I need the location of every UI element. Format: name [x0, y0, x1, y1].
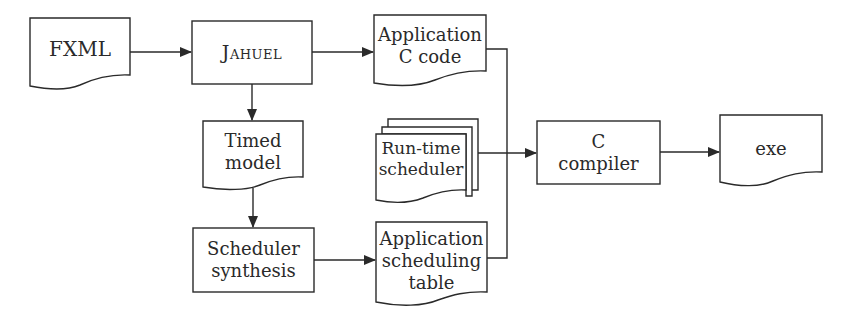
runtime-scheduler-line2: scheduler [379, 159, 464, 180]
node-runtime-scheduler: Run-time scheduler [376, 134, 466, 184]
app-c-code-line1: Application [378, 24, 482, 46]
node-app-c-code: Application C code [374, 15, 486, 77]
node-jahuel: Jahuel [192, 21, 312, 84]
timed-model-line1: Timed [224, 130, 281, 152]
app-sched-table-line2: scheduling [382, 250, 481, 272]
exe-label: exe [755, 138, 786, 160]
node-scheduler-synthesis: Scheduler synthesis [193, 228, 314, 292]
node-exe: exe [720, 115, 822, 183]
jahuel-label: Jahuel [222, 41, 282, 64]
c-compiler-line1: C [592, 131, 606, 153]
runtime-scheduler-line1: Run-time [382, 138, 461, 159]
scheduler-synthesis-line1: Scheduler [207, 238, 300, 260]
app-c-code-line2: C code [399, 46, 462, 68]
app-sched-table-line3: table [409, 272, 455, 294]
node-fxml: FXML [30, 18, 130, 80]
node-c-compiler: C compiler [537, 121, 660, 184]
scheduler-synthesis-line2: synthesis [211, 260, 296, 282]
node-app-sched-table: Application scheduling table [376, 222, 487, 300]
fxml-label: FXML [49, 37, 111, 61]
app-sched-table-line1: Application [380, 228, 484, 250]
c-compiler-line2: compiler [558, 153, 638, 175]
timed-model-line2: model [225, 152, 281, 174]
node-timed-model: Timed model [203, 121, 303, 183]
